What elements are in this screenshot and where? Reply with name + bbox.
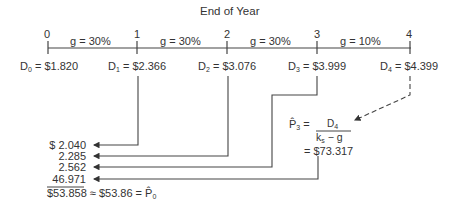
growth-label-1: g = 30% bbox=[70, 35, 111, 47]
dividend-d1: D1 = $2.366 bbox=[108, 60, 166, 74]
terminal-denominator: ks − g bbox=[316, 131, 343, 145]
dividend-d0: D0 = $1.820 bbox=[20, 60, 78, 74]
dividend-d2: D2 = $3.076 bbox=[198, 60, 256, 74]
growth-label-2: g = 30% bbox=[160, 35, 201, 47]
growth-label-4: g = 10% bbox=[340, 35, 381, 47]
dividend-d4: D4 = $4.399 bbox=[380, 60, 438, 74]
period-0: 0 bbox=[44, 28, 50, 40]
terminal-price-label: P̂3 = bbox=[289, 118, 310, 132]
period-2: 2 bbox=[224, 28, 230, 40]
period-4: 4 bbox=[406, 28, 412, 40]
chart-title: End of Year bbox=[200, 5, 259, 17]
period-3: 3 bbox=[314, 28, 320, 40]
terminal-price-value: = $73.317 bbox=[304, 145, 353, 157]
total-value: $53.858 ≈ $53.86 = P̂0 bbox=[47, 187, 156, 201]
pv-terminal: 46.971 bbox=[20, 173, 86, 185]
period-1: 1 bbox=[134, 28, 140, 40]
growth-label-3: g = 30% bbox=[250, 35, 291, 47]
pv-year-3: 2.562 bbox=[20, 161, 86, 173]
dividend-d3: D3 = $3.999 bbox=[288, 60, 346, 74]
terminal-numerator: D4 bbox=[327, 118, 338, 131]
